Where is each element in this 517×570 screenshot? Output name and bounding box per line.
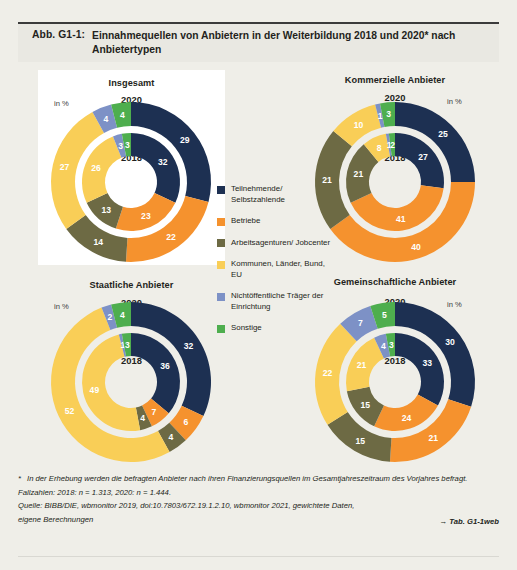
segment-value-label: 4 [381, 341, 386, 351]
segment-value-label: 3 [125, 340, 130, 350]
segment-value-label: 10 [354, 120, 364, 130]
segment-value-label: 2 [108, 312, 113, 322]
legend-item[interactable]: Kommunen, Länder, Bund, EU [217, 259, 335, 280]
segment-value-label: 30 [445, 337, 455, 347]
donut-segment[interactable] [82, 136, 121, 202]
segment-value-label: 15 [356, 436, 366, 446]
segment-value-label: 29 [180, 135, 190, 145]
footnote-cases: Fallzahlen: 2018: n = 1.313, 2020: n = 1… [18, 487, 499, 499]
donut-segment[interactable] [51, 308, 170, 462]
segment-value-label: 27 [418, 152, 428, 162]
legend-item-label: Sonstige [231, 323, 262, 334]
segment-value-label: 33 [422, 358, 432, 368]
legend-item-label: Teilnehmende/ Selbstzahlende [231, 184, 335, 205]
segment-value-label: 5 [382, 310, 387, 320]
legend-item[interactable]: Teilnehmende/ Selbstzahlende [217, 184, 335, 205]
segment-value-label: 4 [169, 432, 174, 442]
legend-item[interactable]: Nichtöffentliche Träger der Einrichtung [217, 291, 335, 312]
segment-value-label: 49 [90, 385, 100, 395]
charts-container: Insgesamtin %202020182922142744322313263… [18, 62, 499, 466]
segment-value-label: 32 [184, 341, 194, 351]
segment-value-label: 22 [166, 232, 176, 242]
donut-segment[interactable] [131, 333, 180, 413]
legend: Teilnehmende/ SelbstzahlendeBetriebeArbe… [217, 184, 335, 345]
footnote-text: In der Erhebung werden die befragten Anb… [27, 474, 467, 485]
segment-value-label: 3 [389, 340, 394, 350]
table-reference-link[interactable]: → Tab. G1-1web [439, 517, 499, 526]
bottom-rule [18, 556, 499, 557]
donut-chart-panel: Insgesamtin %202020182922142744322313263… [38, 70, 225, 265]
segment-value-label: 25 [438, 129, 448, 139]
segment-value-label: 4 [104, 114, 109, 124]
segment-value-label: 6 [184, 417, 189, 427]
donut-chart-panel: Staatliche Anbieterin %20202018326452243… [38, 272, 225, 466]
segment-value-label: 32 [158, 157, 168, 167]
segment-value-label: 22 [323, 368, 333, 378]
legend-item-label: Nichtöffentliche Träger der Einrichtung [231, 291, 335, 312]
segment-value-label: 21 [357, 360, 367, 370]
segment-value-label: 4 [120, 310, 125, 320]
figure-number: Abb. G1-1: [32, 29, 85, 40]
segment-value-label: 7 [358, 318, 363, 328]
legend-swatch-icon [217, 325, 225, 333]
segment-value-label: 15 [361, 400, 371, 410]
segment-value-label: 8 [377, 143, 382, 153]
segment-value-label: 40 [411, 242, 421, 252]
footnotes: * In der Erhebung werden die befragten A… [18, 474, 499, 526]
donut-rings: 29221427443223132633 [38, 70, 225, 265]
legend-swatch-icon [217, 293, 225, 301]
legend-item-label: Betriebe [231, 216, 260, 227]
segment-value-label: 21 [428, 433, 438, 443]
segment-value-label: 13 [101, 205, 111, 215]
legend-item-label: Kommunen, Länder, Bund, EU [231, 259, 335, 280]
segment-value-label: 4 [140, 413, 145, 423]
segment-value-label: 52 [65, 406, 75, 416]
figure-page: Abb. G1-1: Einnahmequellen von Anbietern… [0, 0, 517, 570]
figure-header: Abb. G1-1: Einnahmequellen von Anbietern… [18, 22, 499, 62]
footnote-source-line-2: eigene Berechnungen [18, 514, 93, 526]
legend-swatch-icon [217, 218, 225, 226]
segment-value-label: 4 [120, 110, 125, 120]
footnote-star: * [18, 474, 21, 485]
legend-swatch-icon [217, 186, 225, 194]
page-title: Einnahmequellen von Anbietern in der Wei… [92, 29, 489, 57]
legend-item[interactable]: Betriebe [217, 216, 335, 227]
donut-rings: 3264522436744913 [38, 272, 225, 466]
segment-value-label: 3 [125, 140, 130, 150]
segment-value-label: 24 [402, 413, 412, 423]
segment-value-label: 3 [386, 109, 391, 119]
segment-value-label: 27 [60, 162, 70, 172]
footnote-source-line-1: Quelle: BIBB/DIE, wbmonitor 2019, doi:10… [18, 500, 499, 512]
segment-value-label: 36 [160, 361, 170, 371]
segment-value-label: 41 [396, 214, 406, 224]
segment-value-label: 23 [141, 211, 151, 221]
segment-value-label: 3 [118, 141, 123, 151]
segment-value-label: 14 [93, 237, 103, 247]
legend-swatch-icon [217, 239, 225, 247]
segment-value-label: 7 [152, 407, 157, 417]
header-rule [18, 22, 499, 24]
legend-item-label: Arbeitsagenturen/ Jobcenter [231, 238, 330, 249]
legend-item[interactable]: Arbeitsagenturen/ Jobcenter [217, 238, 335, 249]
legend-item[interactable]: Sonstige [217, 323, 335, 334]
segment-value-label: 2 [390, 140, 395, 150]
legend-swatch-icon [217, 261, 225, 269]
segment-value-label: 21 [354, 169, 364, 179]
segment-value-label: 26 [91, 163, 101, 173]
